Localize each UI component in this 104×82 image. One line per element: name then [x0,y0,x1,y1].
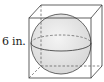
sphere [31,14,91,74]
dimension-label: 6 in. [2,35,26,48]
